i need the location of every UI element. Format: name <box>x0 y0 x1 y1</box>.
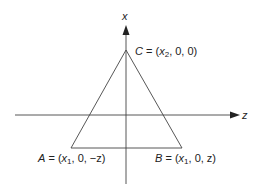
point-a-label: A = (x1, 0, −z) <box>37 152 105 166</box>
diagram-svg: x z C = (x2, 0, 0) A = (x1, 0, −z) B = (… <box>0 0 262 190</box>
point-b-label: B = (x1, 0, z) <box>155 152 216 166</box>
triangle-diagram: x z C = (x2, 0, 0) A = (x1, 0, −z) B = (… <box>0 0 262 190</box>
x-axis-label: x <box>121 10 128 22</box>
point-c-label: C = (x2, 0, 0) <box>135 45 197 59</box>
triangle-abc <box>71 50 182 148</box>
x-axis-arrow-icon <box>123 25 130 35</box>
z-axis-label: z <box>241 109 248 121</box>
z-axis-arrow-icon <box>230 112 240 119</box>
